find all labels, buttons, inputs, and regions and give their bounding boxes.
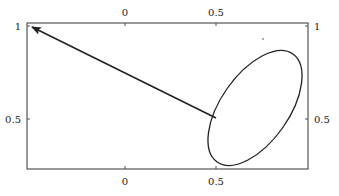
bottom-tick-label-0: 0 [122, 176, 128, 187]
right-tick-label-0.5: 0.5 [314, 114, 330, 125]
top-tick-label-0: 0 [122, 7, 128, 18]
ellipse-shape [189, 34, 320, 181]
small-dot [262, 38, 264, 40]
arrow [32, 27, 216, 118]
top-tick-label-0.5: 0.5 [208, 7, 224, 18]
left-tick-label-0.5: 0.5 [5, 114, 21, 125]
bottom-tick-label-0.5: 0.5 [208, 176, 224, 187]
left-tick-label-1: 1 [15, 21, 21, 32]
diagram-canvas: 0 0.5 0 0.5 1 0.5 1 0.5 [0, 0, 339, 196]
right-tick-label-1: 1 [314, 21, 320, 32]
